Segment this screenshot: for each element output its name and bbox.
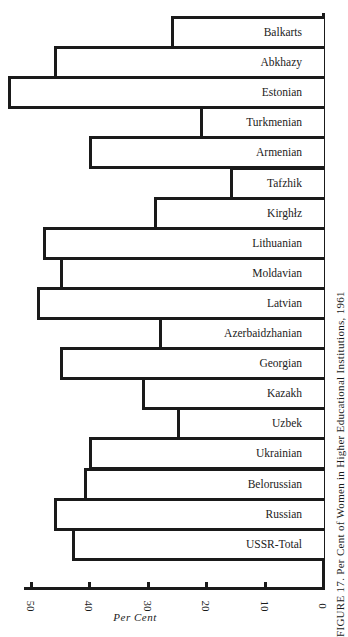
bar-label: Uzbek: [272, 417, 302, 429]
tick-label: 0: [317, 596, 329, 616]
bar-label: Turkmenian: [246, 116, 302, 128]
bar-label: Estonian: [262, 86, 302, 98]
figure-caption: FIGURE 17. Per Cent of Women in Higher E…: [334, 291, 346, 637]
tick-mark: [264, 582, 267, 588]
tick-label: 40: [83, 596, 95, 616]
bar-label: Lithuanian: [252, 237, 302, 249]
x-axis-label: Per Cent: [100, 611, 170, 623]
tick-mark: [88, 582, 91, 588]
bar-label: Latvian: [267, 297, 302, 309]
tick-label: 10: [259, 596, 271, 616]
bar-label: Ukrainian: [256, 447, 302, 459]
bar-label: Belorussian: [248, 478, 302, 490]
bar-label: Kirghłz: [267, 207, 302, 219]
tick-label: 20: [200, 596, 212, 616]
bar-label: Moldavian: [252, 267, 302, 279]
bar-label: Balkarts: [264, 26, 302, 38]
bar-label: Georgian: [259, 357, 302, 369]
value-axis-line: [24, 587, 325, 590]
tick-label: 50: [25, 596, 37, 616]
bar-label: Azerbaidzhanian: [224, 327, 302, 339]
bar-label: Kazakh: [267, 387, 302, 399]
bar-label: Russian: [266, 508, 302, 520]
tick-mark: [147, 582, 150, 588]
bar-label: Abkhazy: [260, 56, 302, 68]
bar-chart: BalkartsAbkhazyEstonianTurkmenianArmenia…: [0, 0, 348, 637]
tick-mark: [30, 582, 33, 588]
bar-label: USSR-Total: [246, 538, 302, 550]
bar-label: Armenian: [256, 146, 302, 158]
tick-mark: [205, 582, 208, 588]
bar-label: Tafzhik: [267, 177, 302, 189]
